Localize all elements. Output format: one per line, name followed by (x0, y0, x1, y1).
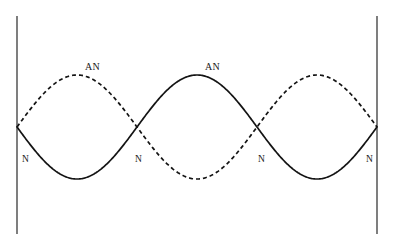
solid-wave-curve (17, 75, 377, 179)
antinode-label-1: AN (85, 62, 100, 72)
wave-curves (17, 75, 377, 179)
dashed-wave-curve (17, 75, 377, 179)
node-label-1: N (22, 155, 29, 165)
node-label-3: N (258, 155, 265, 165)
node-label-4: N (366, 155, 373, 165)
node-label-2: N (135, 155, 142, 165)
standing-wave-diagram: ANANNNNN (0, 0, 393, 248)
antinode-label-2: AN (205, 62, 220, 72)
wave-canvas (0, 0, 393, 248)
boundary-walls (17, 16, 377, 234)
